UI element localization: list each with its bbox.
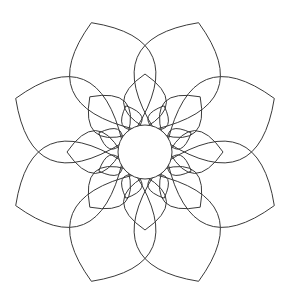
petal — [124, 74, 167, 128]
petal — [124, 176, 167, 230]
petal — [159, 166, 201, 208]
petal — [88, 166, 130, 208]
petal — [88, 95, 130, 137]
petal — [159, 95, 201, 137]
center-circle — [118, 125, 172, 179]
petal — [67, 131, 121, 174]
rosette-svg — [0, 0, 289, 304]
rosette-drawing — [0, 0, 289, 304]
petal — [169, 131, 223, 174]
